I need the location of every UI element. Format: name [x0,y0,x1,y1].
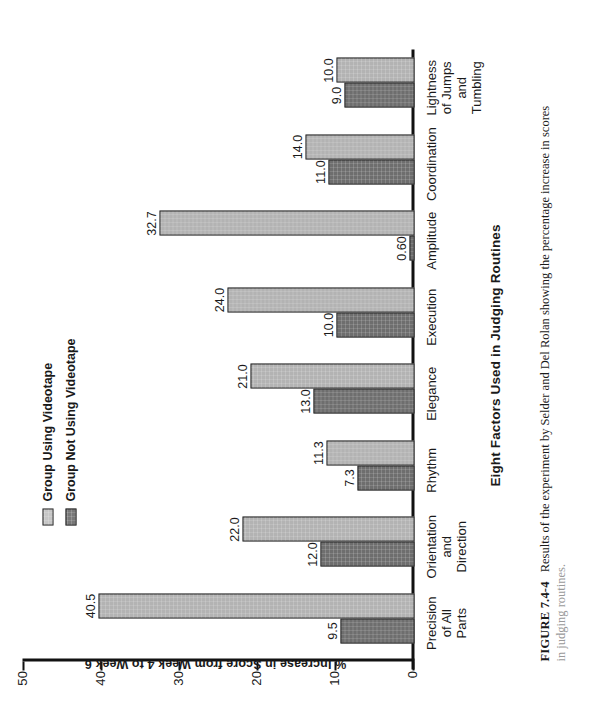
category-label: Elegance [423,366,438,420]
bar-not-using-videotape: 11.0 [328,159,414,184]
bar-not-using-videotape: 9.0 [344,83,414,108]
chart-title: Eight Factors Used in Judging Routines [487,49,502,661]
category-label: Amplitude [423,211,438,269]
bar-not-using-videotape: 9.5 [340,618,414,643]
figure-caption-line1: Results of the experiment by Selder and … [537,105,551,572]
value-tick-label: 30 [170,670,185,685]
bar-value-label: 9.5 [325,622,339,640]
bar-value-label: 11.0 [313,160,327,184]
bar-value-label: 14.0 [290,134,304,159]
bar-not-using-videotape: 7.3 [357,465,414,490]
bar-using-videotape: 24.0 [227,287,414,312]
figure-caption: FIGURE 7.4-4Results of the experiment by… [536,21,568,661]
bar-using-videotape: 10.0 [336,58,414,83]
bar-value-label: 10.0 [321,58,335,83]
value-tick-label: 20 [248,670,263,685]
figure-stage: Group Using Videotape Group Not Using Vi… [0,0,589,721]
bar-using-videotape: 32.7 [159,211,414,236]
category-label: Precision of All Parts [423,596,468,649]
value-tick-label: 40 [92,670,107,685]
bar-using-videotape: 22.0 [242,517,414,542]
bar-value-label: 0.60 [394,236,408,261]
bar-value-label: 11.3 [311,441,325,465]
bar-not-using-videotape: 0.60 [409,236,414,261]
bar-not-using-videotape: 10.0 [336,312,414,337]
bar-not-using-videotape: 13.0 [313,389,414,414]
bar-value-label: 32.7 [144,211,158,236]
value-axis-title: % Increase in Score from Week 4 to Week … [0,656,525,670]
category-label: Lightness of Jumps and Tumbling [423,59,483,115]
bar-value-label: 10.0 [321,312,335,337]
bar-using-videotape: 21.0 [250,364,414,389]
bar-using-videotape: 11.3 [326,440,414,465]
bar-using-videotape: 40.5 [98,593,414,618]
bar-value-label: 40.5 [83,593,97,618]
value-tick-label: 50 [14,670,29,685]
value-tick-label: 10 [326,670,341,685]
figure-number: FIGURE 7.4-4 [537,581,551,661]
value-tick-label: 0 [404,670,419,677]
bar-not-using-videotape: 12.0 [320,542,414,567]
plot-area: 01020304050 9.540.5Precision of All Part… [24,49,414,661]
category-label: Coordination [423,127,438,201]
bar-value-label: 21.0 [235,364,249,389]
bar-value-label: 9.0 [329,86,343,104]
bar-value-label: 12.0 [305,542,319,567]
bar-value-label: 24.0 [212,287,226,312]
bar-value-label: 13.0 [298,389,312,414]
figure-caption-line2: in judging routines. [552,21,568,661]
category-label: Orientation and Direction [423,514,468,578]
category-label: Rhythm [423,447,438,492]
bar-value-label: 7.3 [342,469,356,487]
bar-value-label: 22.0 [227,517,241,542]
category-label: Execution [423,288,438,345]
bar-using-videotape: 14.0 [305,134,414,159]
